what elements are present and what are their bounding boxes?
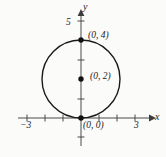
point-label-0-4: (0, 4) — [88, 31, 109, 41]
point-label-0-2: (0, 2) — [90, 72, 111, 82]
point-label-0-0: (0, 0) — [83, 121, 104, 131]
x-axis-label: x — [155, 112, 159, 122]
coordinate-plane-figure: y x 5 −3 3 (0, 4) (0, 2) (0, 0) — [0, 0, 166, 157]
x-tick-label-3: 3 — [134, 121, 139, 131]
y-axis-label: y — [83, 2, 87, 12]
x-tick-label-neg3: −3 — [20, 121, 31, 131]
point-marker-0-4 — [78, 37, 83, 42]
y-tick-label-5: 5 — [66, 18, 71, 28]
plot-canvas — [0, 0, 166, 157]
point-marker-0-2 — [78, 76, 83, 81]
